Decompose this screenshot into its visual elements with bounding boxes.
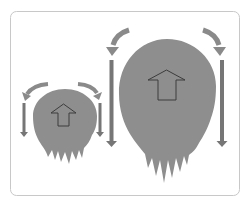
diagram-canvas xyxy=(0,0,247,202)
diagram-svg xyxy=(0,0,247,202)
